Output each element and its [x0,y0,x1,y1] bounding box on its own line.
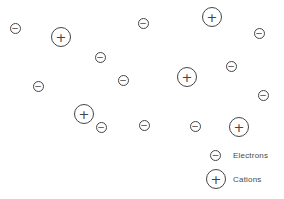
electron-particle: − [118,75,129,86]
legend-item-cations: + Cations [206,169,262,189]
electron-particle: − [95,52,106,63]
electron-legend-icon: − [210,150,221,161]
electron-particle: − [258,90,269,101]
electron-particle: − [33,81,44,92]
electron-particle: − [96,122,107,133]
electron-particle: − [226,61,237,72]
legend-item-electrons: − Electrons [210,150,268,161]
cation-particle: + [51,27,71,47]
electron-particle: − [139,120,150,131]
electron-particle: − [190,121,201,132]
cation-legend-icon: + [206,169,226,189]
cation-particle: + [202,7,222,27]
legend-label-electrons: Electrons [233,151,268,160]
particle-diagram: −+−−+−−+−−−+−−−+ − Electrons + Cations [0,0,284,199]
electron-particle: − [138,18,149,29]
cation-particle: + [229,117,249,137]
electron-particle: − [10,23,21,34]
legend-label-cations: Cations [233,175,262,184]
cation-particle: + [74,104,94,124]
cation-particle: + [177,67,197,87]
electron-particle: − [254,28,265,39]
